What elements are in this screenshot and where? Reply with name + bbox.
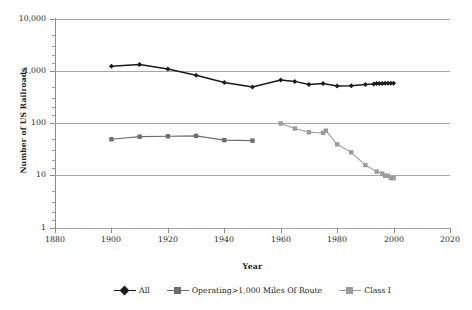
legend-item-operating[interactable]: Operating>1,000 Miles Of Route [167,286,323,295]
y-tick-label: 100 [0,118,46,127]
data-point [335,142,339,146]
x-tick-label: 1900 [91,235,131,244]
legend-item-all[interactable]: All [114,286,150,295]
chart-legend: All Operating>1,000 Miles Of Route Class… [55,282,450,298]
data-point [349,83,354,88]
data-point [292,79,297,84]
data-point [293,126,297,130]
data-point [391,176,395,180]
data-point [278,78,283,83]
x-tick-2020 [450,228,451,233]
x-tick-label: 1960 [261,235,301,244]
data-point [306,82,311,87]
data-point [194,134,198,138]
data-point [363,163,367,167]
x-tick-1940 [224,228,225,233]
data-point [307,130,311,134]
data-point [250,138,254,142]
data-point [391,81,396,86]
x-tick-1900 [111,228,112,233]
data-point [222,138,226,142]
x-tick-label: 2000 [374,235,414,244]
x-tick-1880 [55,228,56,233]
legend-marker-square-icon [339,286,361,295]
legend-marker-diamond-icon [114,286,136,295]
data-point [194,73,199,78]
chart-figure: Number of US Railroads 10,000 1,000 100 [0,0,472,310]
data-point [374,169,378,173]
data-point [324,128,328,132]
gridline-1 [55,228,450,229]
data-point [137,134,141,138]
x-tick-label: 2020 [430,235,470,244]
legend-item-class-i[interactable]: Class I [339,286,391,295]
legend-label: Class I [364,286,391,295]
x-tick-label: 1920 [148,235,188,244]
plot-area: 10,000 1,000 100 10 1 1880 1900 1920 194… [55,19,450,228]
y-tick-label: 1,000 [0,66,46,75]
legend-label: All [139,286,150,295]
data-point [222,80,227,85]
x-tick-label: 1880 [35,235,75,244]
data-point [137,62,142,67]
x-tick-label: 1940 [204,235,244,244]
legend-marker-square-icon [167,286,189,295]
data-point [279,121,283,125]
data-point [321,81,326,86]
data-point [349,150,353,154]
x-tick-1960 [281,228,282,233]
series-layer [55,19,450,228]
data-point [363,82,368,87]
data-point [165,67,170,72]
x-tick-1980 [337,228,338,233]
y-tick-label: 1 [0,223,46,232]
y-tick-label: 10,000 [0,14,46,23]
x-tick-1920 [168,228,169,233]
data-point [250,84,255,89]
y-tick-label: 10 [0,170,46,179]
legend-label: Operating>1,000 Miles Of Route [192,286,323,295]
data-point [109,64,114,69]
x-tick-2000 [394,228,395,233]
data-point [335,84,340,89]
x-axis-title: Year [55,262,450,271]
data-point [109,137,113,141]
x-tick-label: 1980 [317,235,357,244]
series-line-2 [111,136,252,141]
data-point [166,134,170,138]
